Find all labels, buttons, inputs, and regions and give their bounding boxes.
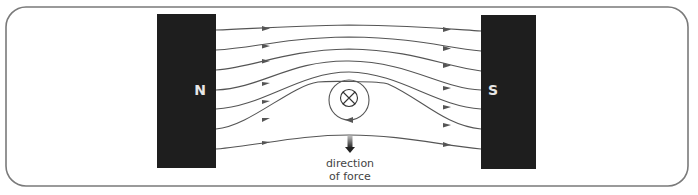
north-pole-label: N <box>194 82 206 98</box>
south-pole-label: S <box>488 82 498 98</box>
north-magnet <box>157 14 216 168</box>
force-caption-line1: direction <box>326 157 374 170</box>
magnetic-force-diagram: N S direction of force <box>0 0 698 195</box>
force-caption-line2: of force <box>329 170 371 183</box>
